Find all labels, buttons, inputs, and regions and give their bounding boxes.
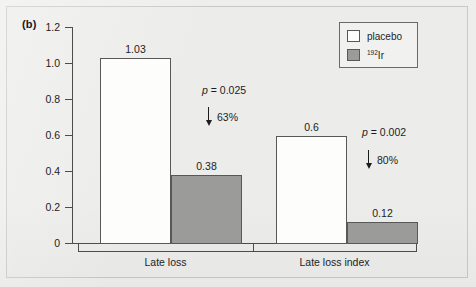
gray-square-swatch-icon <box>347 49 360 61</box>
annotation-p-value-late-loss: p = 0.025 <box>202 80 246 98</box>
annotation-reduction-late-loss: 63% <box>205 107 238 127</box>
bar-late-loss-ir192 <box>171 175 242 244</box>
y-axis-labels: 1.2 1.0 0.8 0.6 0.4 0.2 0 <box>18 0 60 287</box>
y-tick-label: 0.6 <box>45 129 60 141</box>
isotope-symbol: Ir <box>378 50 384 61</box>
legend: placebo 192Ir <box>339 22 418 68</box>
bar-late-loss-index-ir192 <box>347 222 418 244</box>
y-tick-mark <box>65 207 72 208</box>
group-bracket-tick <box>416 244 417 252</box>
y-tick-label: 0 <box>54 237 60 249</box>
y-tick-mark <box>65 243 72 244</box>
legend-item-ir192: 192Ir <box>347 49 384 61</box>
bar-late-loss-index-placebo <box>276 136 347 244</box>
y-tick-label: 0.4 <box>45 165 60 177</box>
bar-value-late-loss-placebo: 1.03 <box>100 43 171 55</box>
bar-value-late-loss-index-ir192: 0.12 <box>347 207 418 219</box>
p-value-text: = 0.002 <box>368 126 406 138</box>
p-value-text: = 0.025 <box>208 84 246 96</box>
x-axis-group-label-late-loss: Late loss <box>78 256 253 268</box>
white-square-swatch-icon <box>347 30 360 42</box>
y-tick-label: 0.2 <box>45 201 60 213</box>
isotope-mass-number: 192 <box>367 49 378 56</box>
arrow-down-icon <box>205 107 212 127</box>
reduction-percent-late-loss: 63% <box>217 111 238 123</box>
bar-value-late-loss-index-placebo: 0.6 <box>276 121 347 133</box>
y-tick-mark <box>65 171 72 172</box>
y-tick-mark <box>65 99 72 100</box>
reduction-percent-late-loss-index: 80% <box>377 154 398 166</box>
chart-figure: (b) 1.2 1.0 0.8 0.6 0.4 0.2 0 1.03 0.38 … <box>0 0 476 287</box>
bar-value-late-loss-ir192: 0.38 <box>171 160 242 172</box>
y-axis-line <box>72 27 73 244</box>
annotation-p-value-late-loss-index: p = 0.002 <box>362 122 406 140</box>
y-tick-label: 0.8 <box>45 93 60 105</box>
y-tick-mark <box>65 135 72 136</box>
x-axis-group-label-late-loss-index: Late loss index <box>253 256 416 268</box>
bar-late-loss-placebo <box>100 58 171 244</box>
legend-item-placebo: placebo <box>347 30 402 42</box>
y-tick-label: 1.0 <box>45 57 60 69</box>
group-bracket-rule <box>78 251 416 252</box>
annotation-reduction-late-loss-index: 80% <box>365 150 398 170</box>
arrow-down-icon <box>365 150 372 170</box>
y-tick-mark <box>65 63 72 64</box>
y-tick-mark <box>65 27 72 28</box>
legend-label-ir192: 192Ir <box>367 49 384 61</box>
legend-label-placebo: placebo <box>367 31 402 42</box>
y-tick-label: 1.2 <box>45 21 60 33</box>
